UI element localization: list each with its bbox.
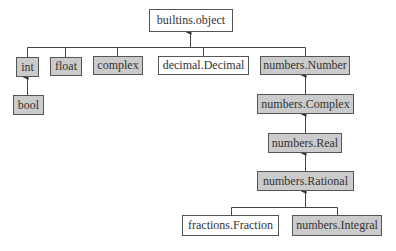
node-fractions-fraction: fractions.Fraction [182,215,279,236]
node-decimal-decimal: decimal.Decimal [158,56,249,75]
node-label: numbers.Real [272,136,338,151]
node-bool: bool [13,95,44,115]
node-label: bool [18,98,39,113]
node-label: int [21,60,34,75]
node-label: numbers.Complex [261,97,349,112]
node-label: builtins.object [157,13,225,28]
node-float: float [50,57,82,76]
node-label: numbers.Rational [263,174,348,189]
node-numbers-integral: numbers.Integral [292,215,382,236]
node-label: fractions.Fraction [188,218,273,233]
connector-lines [0,0,396,251]
node-label: complex [97,58,138,73]
node-numbers-complex: numbers.Complex [257,94,354,114]
node-label: numbers.Integral [296,218,378,233]
node-complex: complex [93,56,143,75]
node-int: int [16,57,39,77]
node-builtins-object: builtins.object [149,9,233,32]
node-label: numbers.Number [263,58,347,73]
node-numbers-number: numbers.Number [260,56,350,75]
node-label: decimal.Decimal [163,58,245,73]
node-numbers-real: numbers.Real [268,133,342,153]
node-numbers-rational: numbers.Rational [257,171,354,191]
node-label: float [55,59,77,74]
